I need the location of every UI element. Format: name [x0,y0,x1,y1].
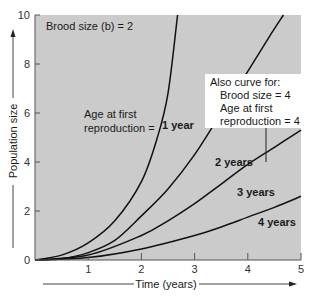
curve-label-2-years: 2 years [215,156,253,168]
age-annotation-line2: reproduction = [84,122,155,134]
curve-label-4-years: 4 years [258,216,296,228]
x-tick-label: 5 [298,263,304,275]
x-axis-arrow-icon [289,282,297,287]
population-growth-chart: 0246810 12345 Brood size (b) = 2 Age at … [0,0,315,300]
y-tick-label: 8 [24,58,30,70]
y-tick-label: 0 [24,254,30,266]
y-axis-title: Population size [7,104,19,179]
curve-label-1-year: 1 year [162,119,195,131]
box-line4: reproduction = 4 [220,115,300,127]
y-tick-label: 4 [24,156,30,168]
box-line1: Also curve for: [210,76,280,88]
age-annotation-line1: Age at first [84,108,137,120]
box-line2: Brood size = 4 [220,89,291,101]
y-tick-label: 10 [18,9,30,21]
x-tick-label: 4 [245,263,251,275]
brood-size-annotation: Brood size (b) = 2 [46,20,133,32]
curve-label-3-years: 3 years [237,186,275,198]
x-tick-label: 2 [138,263,144,275]
y-tick-label: 2 [24,205,30,217]
y-tick-label: 6 [24,107,30,119]
y-axis-arrow-icon [11,29,16,37]
box-line3: Age at first [220,102,273,114]
x-tick-label: 3 [192,263,198,275]
x-tick-label: 1 [85,263,91,275]
x-axis-title: Time (years) [135,278,196,290]
